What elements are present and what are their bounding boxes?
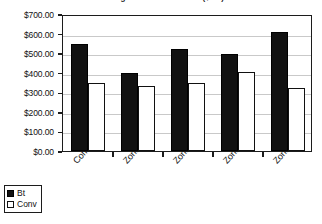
bar-conv-zone-4 (238, 72, 255, 151)
legend-item-bt: Bt (7, 188, 37, 199)
bar-bt-combined (71, 44, 88, 151)
bar-bt-zone-2 (171, 49, 188, 151)
y-tick-mark (58, 132, 62, 134)
bar-conv-zone-2 (188, 83, 205, 151)
bars-layer (63, 16, 311, 151)
legend-label-conv: Conv (17, 200, 37, 209)
x-tick-mark (212, 152, 214, 157)
y-tick-mark (58, 73, 62, 75)
bar-conv-zone-1 (138, 86, 155, 151)
y-tick-label: $400.00 (24, 69, 54, 79)
legend-swatch-conv (7, 201, 14, 208)
y-tick-mark (58, 53, 62, 55)
x-tick-mark (112, 152, 114, 157)
y-tick-mark (58, 151, 62, 153)
y-tick-label: $300.00 (24, 88, 54, 98)
y-tick-label: $0.00 (33, 147, 54, 157)
bar-conv-zone-5 (288, 88, 305, 151)
y-tick-label: $200.00 (24, 108, 54, 118)
y-tick-label: $700.00 (24, 10, 54, 20)
y-tick-mark (58, 14, 62, 16)
y-tick-label: $100.00 (24, 127, 54, 137)
y-tick-mark (58, 34, 62, 36)
bar-bt-zone-4 (221, 54, 238, 151)
y-tick-label: $600.00 (24, 30, 54, 40)
y-tick-mark (58, 112, 62, 114)
legend-item-conv: Conv (7, 199, 37, 210)
bar-chart: Average Economic Return ($/ac) $0.00$100… (0, 0, 322, 224)
bar-conv-combined (88, 83, 105, 151)
plot-area (62, 15, 312, 152)
y-tick-mark (58, 93, 62, 95)
x-tick-mark (262, 152, 264, 157)
x-tick-mark (162, 152, 164, 157)
legend-label-bt: Bt (17, 189, 25, 198)
bar-bt-zone-1 (121, 73, 138, 151)
bar-bt-zone-5 (271, 32, 288, 151)
chart-legend: Bt Conv (4, 185, 42, 213)
y-tick-label: $500.00 (24, 49, 54, 59)
legend-swatch-bt (7, 190, 14, 197)
